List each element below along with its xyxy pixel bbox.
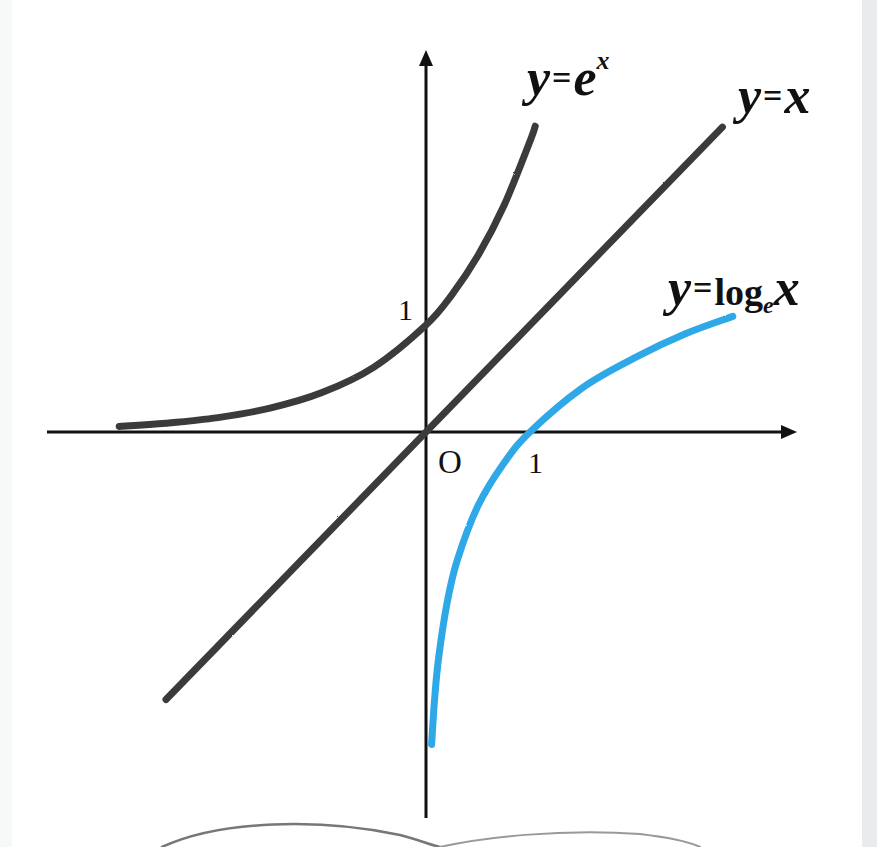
label-log-y: y (668, 259, 691, 316)
y-tick-1: 1 (398, 295, 413, 325)
label-log: y=logex (668, 262, 800, 317)
label-log-x: x (774, 259, 800, 316)
decorative-swoosh (162, 824, 700, 847)
x-axis-arrow-icon (781, 425, 797, 439)
label-log-base: e (763, 292, 774, 318)
label-log-equals: = (693, 269, 712, 306)
label-exp-y: y (527, 49, 550, 106)
label-exp-equals: = (552, 59, 571, 96)
label-log-fn: log (714, 271, 763, 313)
y-axis-arrow-icon (419, 50, 433, 66)
label-identity-equals: = (763, 77, 782, 114)
origin-label: O (438, 446, 462, 479)
label-identity-y: y (738, 67, 761, 124)
label-identity-x: x (784, 67, 810, 124)
function-plot (0, 0, 877, 847)
x-tick-1: 1 (528, 448, 543, 478)
label-identity: y=x (738, 70, 810, 122)
label-exp: y=ex (527, 48, 610, 104)
label-exp-base: e (573, 49, 596, 106)
label-exp-exponent: x (597, 46, 610, 75)
